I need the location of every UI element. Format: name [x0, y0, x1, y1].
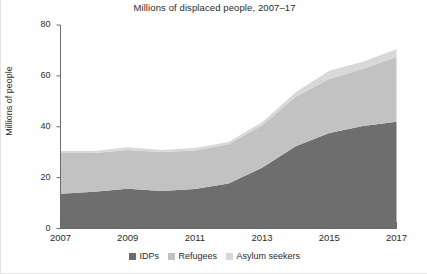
y-axis-tick-label: 60 — [25, 70, 51, 80]
stacked-areas — [61, 49, 397, 228]
legend-item-asylum-seekers[interactable]: Asylum seekers — [226, 252, 300, 261]
x-axis-tick-label: 2013 — [240, 232, 284, 243]
chart-legend: IDPsRefugeesAsylum seekers — [1, 252, 427, 261]
legend-swatch-icon — [168, 253, 175, 260]
x-axis-tick-label: 2011 — [173, 232, 217, 243]
legend-item-idps[interactable]: IDPs — [129, 252, 159, 261]
legend-label: Refugees — [178, 252, 217, 261]
legend-swatch-icon — [129, 253, 136, 260]
y-axis-ticks — [57, 25, 61, 229]
y-axis-tick-label: 20 — [25, 172, 51, 182]
legend-swatch-icon — [226, 253, 233, 260]
y-axis-tick-label: 40 — [25, 121, 51, 131]
x-axis-tick-label: 2015 — [307, 232, 351, 243]
x-axis-tick-label: 2017 — [375, 232, 419, 243]
y-axis-tick-label: 80 — [25, 19, 51, 29]
legend-item-refugees[interactable]: Refugees — [168, 252, 217, 261]
y-axis-tick-label: 0 — [25, 223, 51, 233]
chart-figure: Millions of displaced people, 2007–17 Mi… — [0, 0, 427, 274]
legend-label: IDPs — [139, 252, 159, 261]
legend-label: Asylum seekers — [237, 252, 301, 261]
x-axis-tick-label: 2009 — [106, 232, 150, 243]
x-axis-tick-label: 2007 — [39, 232, 83, 243]
